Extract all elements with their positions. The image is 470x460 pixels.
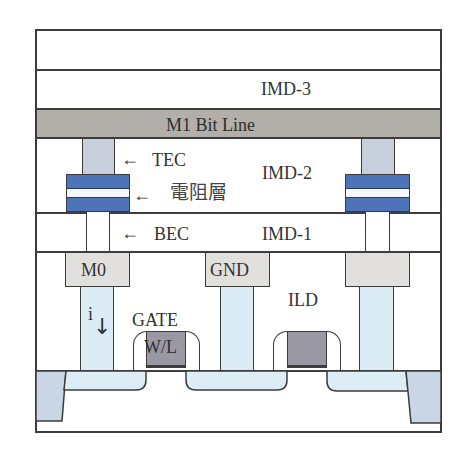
middle-source-diffusion	[186, 371, 287, 390]
substrate-regions	[0, 0, 470, 460]
left-sti-region	[36, 371, 66, 421]
left-drain-diffusion	[64, 371, 146, 390]
right-sti-region	[406, 371, 441, 423]
right-drain-diffusion	[327, 371, 408, 391]
